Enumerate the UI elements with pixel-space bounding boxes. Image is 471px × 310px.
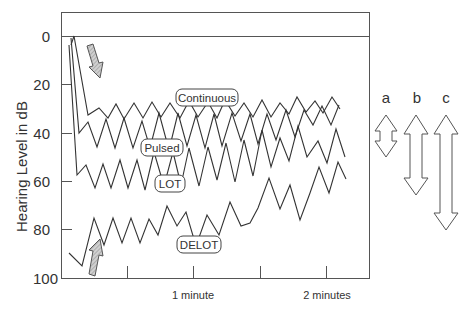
svg-text:Continuous: Continuous [178,92,236,104]
x-axis [128,266,327,278]
label-delot: DELOT [177,236,221,253]
xtick-2-minutes: 2 minutes [303,289,351,301]
ytick-100: 100 [33,270,58,287]
label-lot: LOT [155,175,185,192]
double-arrow-c-icon [434,115,458,230]
down-arrow-icon [87,44,103,78]
ytick-60: 60 [33,173,50,190]
double-arrow-a-icon [375,115,397,157]
xtick-1-minute: 1 minute [172,289,214,301]
ytick-80: 80 [33,221,50,238]
label-c: c [442,89,450,106]
chart-canvas: 0 20 40 60 80 100 Hearing Level in dB 1 … [0,0,471,310]
series-lot [69,45,345,190]
ytick-20: 20 [33,76,50,93]
y-axis-label: Hearing Level in dB [13,101,30,232]
ytick-40: 40 [33,125,50,142]
svg-text:Pulsed: Pulsed [144,142,179,154]
svg-text:LOT: LOT [159,178,181,190]
y-axis [61,85,72,230]
label-a: a [382,89,391,106]
double-arrow-b-icon [404,115,428,195]
label-b: b [413,89,421,106]
up-arrow-icon [89,239,103,276]
ytick-0: 0 [42,28,50,45]
label-continuous: Continuous [176,89,238,106]
svg-text:DELOT: DELOT [180,239,218,251]
label-pulsed: Pulsed [141,139,183,156]
series-continuous [71,36,340,119]
